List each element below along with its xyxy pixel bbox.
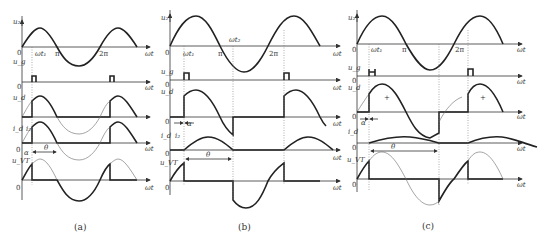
svg-text:0: 0	[16, 146, 20, 154]
svg-text:i₂: i₂	[175, 132, 180, 140]
svg-text:π: π	[218, 50, 223, 58]
svg-text:ωt: ωt	[333, 50, 342, 58]
svg-text:ωt: ωt	[333, 154, 342, 162]
panel-b-u2-plot: u₂ 0 ωt₁ π ωt₂ 2π ωt	[161, 14, 342, 72]
svg-text:0: 0	[165, 184, 169, 192]
svg-text:0: 0	[17, 49, 21, 57]
svg-text:α: α	[187, 120, 192, 128]
svg-text:u_VT: u_VT	[347, 156, 366, 164]
svg-text:0: 0	[352, 144, 356, 152]
panel-b-ud-plot: u_d 0 ωt α	[161, 88, 342, 135]
panel-b-uvt-plot: u_VT 0 ωt	[160, 159, 342, 208]
svg-text:ωt: ωt	[333, 120, 342, 128]
svg-text:u_d: u_d	[13, 94, 26, 102]
panel-b-ug-plot: u_g 0 ωt	[161, 68, 342, 92]
svg-text:ωt₂: ωt₂	[229, 36, 241, 44]
svg-text:2π: 2π	[455, 46, 464, 54]
svg-text:ωt: ωt	[333, 184, 342, 192]
svg-text:α: α	[24, 149, 29, 157]
svg-text:0: 0	[17, 83, 21, 91]
svg-text:i_d: i_d	[161, 132, 172, 140]
panel-b: u₂ 0 ωt₁ π ωt₂ 2π ωt u_g 0 ωt u_d 0 ωt α	[160, 10, 342, 232]
svg-text:0: 0	[16, 184, 20, 192]
svg-text:0: 0	[165, 49, 169, 57]
svg-text:ωt: ωt	[517, 46, 526, 54]
svg-text:i_d: i_d	[348, 128, 359, 136]
svg-text:u₂: u₂	[348, 14, 356, 22]
panel-a-ud-plot: u_d	[13, 94, 150, 134]
svg-text:u_VT: u_VT	[160, 159, 179, 167]
svg-text:u_d: u_d	[161, 88, 174, 96]
svg-text:ωt: ωt	[517, 78, 526, 86]
panel-a-u2-plot: u₂ 0 ωt₁ π 2π ωt	[13, 18, 154, 66]
svg-text:ωt: ωt	[517, 145, 526, 153]
svg-text:ωt₁: ωt₁	[183, 50, 195, 58]
svg-text:u_g: u_g	[348, 64, 361, 72]
svg-text:θ: θ	[44, 144, 49, 152]
svg-text:u_VT: u_VT	[12, 157, 31, 165]
panel-a-u2-label: u₂	[13, 18, 21, 26]
panel-c-uvt-plot: u_VT 0 ωt	[347, 152, 526, 205]
panel-c-caption: (c)	[422, 221, 434, 231]
panel-c: u₂ 0 ωt₁ π 2π ωt u_g 0 ωt + + u_d 0 ωt	[347, 10, 537, 231]
svg-text:0: 0	[352, 46, 356, 54]
svg-text:ωt: ωt	[145, 184, 154, 192]
svg-text:2π: 2π	[99, 50, 108, 58]
panel-a-ug-plot: u_g 0 ωt	[13, 58, 154, 92]
svg-text:ωt: ωt	[333, 84, 342, 92]
svg-text:ωt₁: ωt₁	[371, 46, 383, 54]
svg-text:ωt: ωt	[517, 113, 526, 121]
panel-a-id-plot: i_d i₂ 0 ωt α θ	[13, 122, 154, 160]
svg-text:u₂: u₂	[161, 14, 169, 22]
panel-c-u2-plot: u₂ 0 ωt₁ π 2π ωt	[348, 14, 526, 70]
svg-text:π: π	[55, 50, 60, 58]
panel-a-uvt-plot: u_VT 0 ωt	[12, 157, 154, 201]
svg-text:0: 0	[352, 113, 356, 121]
svg-text:π: π	[402, 46, 407, 54]
svg-text:u_g: u_g	[161, 68, 174, 76]
svg-text:ωt: ωt	[517, 181, 526, 189]
svg-text:2π: 2π	[269, 50, 278, 58]
panel-b-caption: (b)	[238, 222, 251, 232]
svg-text:ωt: ωt	[145, 145, 154, 153]
svg-text:θ: θ	[391, 143, 396, 151]
svg-text:ωt: ωt	[145, 84, 154, 92]
svg-text:ωt₁: ωt₁	[35, 50, 47, 58]
svg-text:+: +	[480, 94, 486, 102]
rectifier-waveform-figure: u₂ 0 ωt₁ π 2π ωt u_g 0 ωt u_d	[0, 0, 547, 241]
svg-text:0: 0	[165, 150, 169, 158]
svg-text:ωt: ωt	[145, 50, 154, 58]
svg-text:0: 0	[352, 181, 356, 189]
panel-c-id-plot: i_d 0 ωt θ	[348, 128, 537, 153]
svg-text:α: α	[361, 119, 366, 127]
panel-a: u₂ 0 ωt₁ π 2π ωt u_g 0 ωt u_d	[12, 16, 154, 232]
panel-b-id-plot: i_d i₂ 0 ωt θ	[161, 132, 342, 162]
svg-text:i₂: i₂	[26, 125, 31, 133]
panel-c-ud-plot: + + u_d 0 ωt α	[348, 84, 526, 138]
svg-text:i_d: i_d	[13, 125, 24, 133]
svg-text:u_g: u_g	[13, 58, 26, 66]
svg-text:θ: θ	[206, 151, 211, 159]
svg-text:+: +	[384, 94, 390, 102]
svg-text:0: 0	[165, 118, 169, 126]
panel-a-caption: (a)	[74, 222, 86, 232]
svg-text:u_d: u_d	[348, 84, 361, 92]
